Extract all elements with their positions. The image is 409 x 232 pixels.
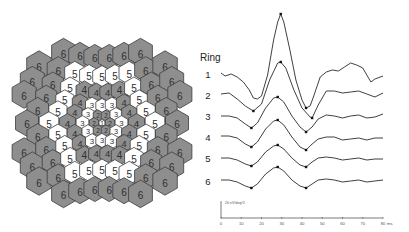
trace-ring-1 — [221, 14, 383, 108]
hexagon-ring-number: 6 — [177, 91, 183, 102]
trace-ring-3 — [221, 97, 383, 132]
hexagon-ring-number: 4 — [117, 150, 123, 161]
trace-marker — [277, 119, 279, 121]
trace-marker — [305, 166, 307, 168]
trace-marker — [250, 165, 252, 167]
trace-marker — [252, 110, 254, 112]
trace-marker — [250, 127, 252, 129]
ring-response-traces — [221, 13, 383, 189]
hexagon-ring-number: 5 — [112, 166, 118, 177]
ring-label-3: 3 — [205, 111, 210, 122]
x-tick-label: 40 — [300, 221, 305, 226]
ring-label-4: 4 — [205, 132, 210, 143]
x-tick-label: 70 — [360, 221, 365, 226]
hexagon-ring-number: 6 — [61, 49, 67, 60]
x-tick-label: 30 — [279, 221, 284, 226]
hexagon-ring-number: 3 — [90, 101, 95, 110]
hexagon-ring-number: 6 — [106, 53, 112, 64]
trace-ring-2 — [221, 62, 383, 118]
ring-label-2: 2 — [205, 90, 210, 101]
hexagon-ring-number: 3 — [110, 137, 115, 146]
ring-label-1: 1 — [205, 69, 210, 80]
hexagon-ring-number: 6 — [77, 51, 83, 62]
trace-marker — [311, 117, 313, 119]
ring-label-6: 6 — [205, 176, 210, 187]
x-tick-label: 60 — [340, 221, 345, 226]
hexagon-ring-number: 2 — [104, 112, 108, 119]
hexagon-ring-number: 5 — [99, 72, 105, 83]
hexagon-ring-number: 5 — [86, 166, 92, 177]
time-axis: 20 nV/deg^201020304050607080ms — [220, 201, 393, 226]
hexagon-ring-number: 6 — [138, 190, 144, 201]
hexagon-ring-number: 3 — [90, 137, 95, 146]
hexagon-ring-number: 6 — [92, 53, 98, 64]
trace-marker — [305, 187, 307, 189]
hexagon-ring-number: 6 — [61, 190, 67, 201]
trace-marker — [277, 96, 279, 98]
hexagon-ring-number: 1 — [100, 120, 104, 127]
hexagon-ring-number: 6 — [106, 185, 112, 196]
x-tick-label: 80 — [381, 221, 386, 226]
scale-bar-label: 20 nV/deg^2 — [225, 201, 245, 205]
hexagon-ring-number: 2 — [108, 120, 112, 127]
hexagon-ring-number: 6 — [92, 185, 98, 196]
trace-marker — [277, 144, 279, 146]
hexagon-ring-number: 4 — [105, 87, 110, 98]
trace-ring-6 — [221, 167, 383, 188]
trace-marker — [277, 166, 279, 168]
hexagon-ring-number: 4 — [82, 150, 88, 161]
hexagon-ring-number: 5 — [112, 71, 118, 82]
hexagon-ring-number: 5 — [99, 165, 105, 176]
hexagon-stimulus-map: 6666666655555666654444566665433345666543… — [12, 38, 192, 207]
hexagon-ring-number: 2 — [96, 112, 100, 119]
hexagon-ring-number: 4 — [94, 87, 99, 98]
ring-legend-title: Ring — [200, 52, 221, 63]
hexagon-ring-number: 5 — [72, 169, 78, 180]
mferg-figure: 6666666655555666654444566665433345666543… — [0, 0, 409, 232]
hexagon-ring-number: 6 — [77, 187, 83, 198]
hexagon-ring-number: 6 — [121, 51, 127, 62]
ring-labels: 123456 — [205, 69, 210, 187]
hexagon-ring-number: 2 — [92, 120, 96, 127]
hexagon-ring-number: 2 — [96, 127, 100, 134]
hexagon-ring-number: 5 — [126, 169, 132, 180]
x-tick-label: 0 — [220, 221, 223, 226]
hexagon-ring-number: 4 — [82, 85, 88, 96]
x-tick-label: 10 — [239, 221, 244, 226]
trace-marker — [280, 13, 282, 15]
ring-label-5: 5 — [205, 153, 210, 164]
x-tick-label: 20 — [259, 221, 264, 226]
trace-marker — [305, 107, 307, 109]
hexagon-ring-number: 6 — [121, 187, 127, 198]
hexagon-ring-number: 4 — [105, 148, 110, 159]
trace-marker — [250, 146, 252, 148]
hexagon-ring-number: 2 — [104, 127, 108, 134]
hexagon-ring-number: 3 — [100, 101, 104, 110]
hexagon-ring-number: 6 — [21, 91, 27, 102]
trace-marker — [280, 61, 282, 63]
hexagon-ring-number: 5 — [72, 69, 78, 80]
hexagon-ring-number: 4 — [94, 148, 99, 159]
hexagon-ring-number: 5 — [86, 71, 92, 82]
hexagon-ring-number: 6 — [36, 178, 42, 189]
x-tick-label: 50 — [320, 221, 325, 226]
x-axis-unit: ms — [387, 221, 393, 226]
trace-marker — [305, 131, 307, 133]
trace-marker — [305, 149, 307, 151]
hexagon-ring-number: 6 — [162, 178, 168, 189]
trace-marker — [250, 187, 252, 189]
hexagon-ring-number: 3 — [100, 136, 104, 145]
